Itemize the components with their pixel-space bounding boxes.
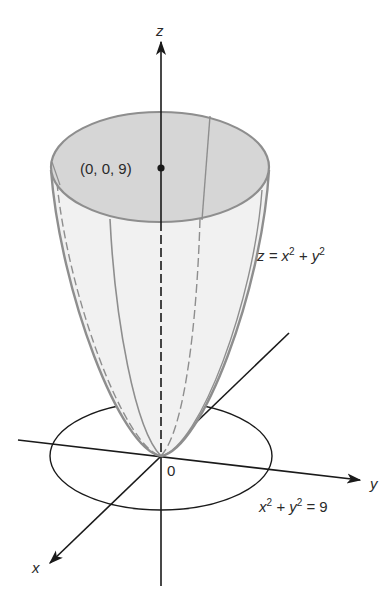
x-axis-label: x (31, 559, 40, 576)
z-axis-label: z (155, 22, 164, 39)
surface-eq-plus: + y (295, 247, 321, 264)
origin-label: 0 (167, 462, 175, 479)
top-point-marker (157, 164, 164, 171)
surface-equation: z = x2 + y2 (256, 246, 325, 264)
circle-equation: x2 + y2 = 9 (258, 497, 328, 515)
circle-eq-plus: + y (272, 498, 298, 515)
y-axis (18, 440, 360, 480)
top-point-label: (0, 0, 9) (80, 160, 132, 177)
surface-eq-z: z = x (256, 247, 290, 264)
surface-eq-sup2: 2 (319, 246, 325, 257)
paraboloid-diagram: z y x 0 (0, 0, 9) z = x2 + y2 x2 + y2 = … (0, 0, 391, 599)
circle-eq-rhs: = 9 (302, 498, 327, 515)
y-axis-label: y (369, 475, 379, 492)
